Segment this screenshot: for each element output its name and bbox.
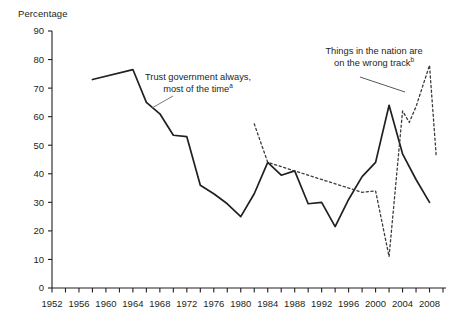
y-tick-label: 40 xyxy=(33,168,44,179)
x-tick-labels: 1952195619601964196819721976198019841988… xyxy=(41,298,440,309)
x-tick-label: 1992 xyxy=(311,298,332,309)
annotation-trust-line2: most of the time xyxy=(163,84,229,94)
annotation-track-line2: on the wrong track xyxy=(334,58,410,68)
x-tick-label: 1996 xyxy=(338,298,359,309)
y-tick-marks xyxy=(48,31,52,288)
chart-container: Percentage 0102030405060708090 195219561… xyxy=(0,0,458,324)
x-tick-label: 1976 xyxy=(203,298,224,309)
leader-line-trust xyxy=(152,96,173,108)
annotation-track-line1: Things in the nation are xyxy=(325,46,422,56)
y-tick-label: 90 xyxy=(33,25,44,36)
annotation-trust-government: Trust government always, most of the tim… xyxy=(143,72,253,95)
y-tick-label: 60 xyxy=(33,111,44,122)
y-tick-label: 20 xyxy=(33,225,44,236)
x-tick-label: 1988 xyxy=(284,298,305,309)
x-tick-label: 1964 xyxy=(122,298,143,309)
x-tick-marks xyxy=(52,288,443,293)
x-tick-label: 1980 xyxy=(230,298,251,309)
y-axis: 0102030405060708090 xyxy=(33,25,52,293)
x-tick-label: 1956 xyxy=(68,298,89,309)
y-tick-label: 30 xyxy=(33,197,44,208)
x-tick-label: 1952 xyxy=(41,298,62,309)
annotation-track-superscript: b xyxy=(410,56,414,63)
x-tick-label: 2008 xyxy=(419,298,440,309)
annotation-trust-line1: Trust government always, xyxy=(145,72,251,82)
y-tick-label: 80 xyxy=(33,54,44,65)
x-tick-label: 1968 xyxy=(149,298,170,309)
x-tick-label: 2000 xyxy=(365,298,386,309)
annotation-wrong-track: Things in the nation are on the wrong tr… xyxy=(310,46,438,69)
y-tick-label: 70 xyxy=(33,83,44,94)
x-axis: 1952195619601964196819721976198019841988… xyxy=(41,288,446,309)
y-tick-label: 0 xyxy=(39,282,44,293)
y-tick-label: 50 xyxy=(33,140,44,151)
y-tick-label: 10 xyxy=(33,254,44,265)
leader-line-track xyxy=(360,77,405,92)
x-tick-label: 1960 xyxy=(95,298,116,309)
x-tick-label: 1972 xyxy=(176,298,197,309)
series-line-1 xyxy=(254,65,436,256)
y-tick-labels: 0102030405060708090 xyxy=(33,25,44,293)
annotation-trust-superscript: a xyxy=(229,82,233,89)
x-tick-label: 1984 xyxy=(257,298,278,309)
x-tick-label: 2004 xyxy=(392,298,413,309)
